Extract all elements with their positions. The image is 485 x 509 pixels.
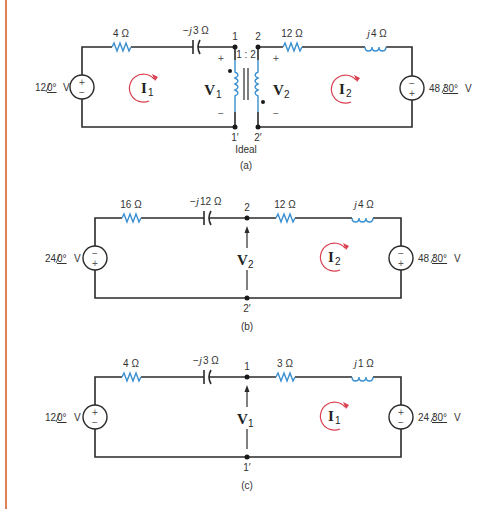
voltage-symbol: V [237, 411, 248, 427]
v1-plus: + [218, 53, 224, 64]
source-unit: V [74, 412, 81, 423]
mesh-current-symbol: I [328, 408, 334, 424]
voltage-source-right-b: − + [389, 246, 413, 270]
svg-text:+: + [92, 258, 98, 269]
svg-text:+: + [398, 258, 404, 269]
circuit-a: + − 12 0° V 4 Ω − j 3 Ω 1 2 1′ 2′ [35, 24, 472, 171]
mesh-current-symbol: I [141, 80, 147, 96]
inductor-label-j: j [365, 27, 370, 39]
v1-symbol: V [204, 82, 215, 98]
source-unit: V [454, 412, 461, 423]
inductor-icon [352, 218, 373, 222]
resistor-label: 4 Ω [123, 358, 139, 369]
mesh-current-subscript: 1 [335, 415, 341, 426]
wire [95, 377, 122, 405]
svg-text:−: − [79, 87, 85, 98]
wire [198, 47, 235, 60]
resistor-icon [283, 43, 302, 51]
wire [258, 100, 412, 127]
source-unit: V [454, 253, 461, 264]
source-unit: V [63, 82, 70, 93]
node-label: 1 [232, 31, 238, 42]
v2-plus: + [273, 53, 279, 64]
svg-text:−: − [92, 417, 98, 428]
source-angle: 0° [57, 253, 67, 264]
voltage-source-left-a: + − [70, 75, 94, 99]
wire [258, 47, 283, 60]
inductor-icon [352, 377, 373, 381]
inductor-icon [365, 47, 386, 51]
svg-text:+: + [409, 88, 415, 99]
source-magnitude: 24 [45, 253, 57, 264]
resistor-icon [112, 43, 131, 51]
capacitor-label-value: 3 Ω [203, 355, 219, 366]
v2-minus: − [273, 108, 279, 119]
ideal-transformer-icon [228, 60, 265, 112]
voltage-source-left-c: + − [83, 405, 107, 429]
node-label: 1′ [243, 462, 251, 473]
circuit-b: − + 24 0° V 16 Ω − j 12 Ω 2 2′ V 2 12 Ω … [45, 195, 461, 332]
resistor-icon [122, 214, 141, 222]
inductor-label-value: 4 Ω [358, 199, 374, 210]
source-unit: V [465, 83, 472, 94]
figure-caption: (b) [241, 321, 253, 332]
figure-caption: (c) [241, 480, 253, 491]
turns-ratio: 1 : 2 [236, 49, 256, 60]
v1-minus: − [218, 108, 224, 119]
resistor-icon [276, 214, 295, 222]
source-angle: 30° [443, 83, 458, 94]
mesh-current-symbol: I [328, 249, 334, 265]
wire [82, 99, 235, 127]
resistor-icon [122, 373, 141, 381]
voltage-source-right-c: + − [389, 405, 413, 429]
capacitor-label-value: 3 Ω [193, 25, 209, 36]
source-magnitude: 24 [418, 412, 430, 423]
resistor-label: 12 Ω [281, 28, 303, 39]
wire [373, 218, 401, 246]
node-1-prime [233, 125, 238, 130]
inductor-label-j: j [352, 198, 357, 210]
node-label: 1′ [231, 132, 239, 143]
voltage-source-right-a: − + [400, 76, 424, 100]
voltage-subscript: 1 [248, 418, 254, 429]
mesh-current-symbol: I [339, 81, 345, 97]
source-magnitude: 48 [418, 253, 430, 264]
node-1 [245, 375, 250, 380]
node-label: 2 [244, 202, 250, 213]
inductor-label-value: 1 Ω [358, 358, 374, 369]
node-label: 2′ [243, 303, 251, 314]
source-magnitude: 48 [429, 83, 441, 94]
node-2-prime [245, 296, 250, 301]
wire [386, 47, 412, 76]
inductor-label-j: j [352, 357, 357, 369]
resistor-label: 16 Ω [120, 199, 142, 210]
v2-subscript: 2 [284, 89, 290, 100]
node-2-prime [256, 125, 261, 130]
voltage-source-left-b: − + [83, 246, 107, 270]
transformer-label: Ideal [235, 144, 257, 155]
node-label: 2 [255, 31, 261, 42]
source-magnitude: 12 [35, 82, 47, 93]
wire [95, 429, 401, 457]
v1-subscript: 1 [216, 89, 222, 100]
voltage-subscript: 2 [248, 259, 254, 270]
mesh-current-subscript: 2 [335, 256, 341, 267]
node-2 [245, 216, 250, 221]
capacitor-label-value: 12 Ω [200, 196, 222, 207]
resistor-label: 3 Ω [277, 358, 293, 369]
svg-text:−: − [398, 417, 404, 428]
wire [373, 377, 401, 405]
resistor-label: 4 Ω [113, 28, 129, 39]
inductor-label-value: 4 Ω [371, 28, 387, 39]
node-label: 1 [244, 361, 250, 372]
circuit-c: + − 12 0° V 4 Ω − j 3 Ω 1 1′ V 1 3 Ω j 1… [45, 354, 461, 491]
wire [82, 47, 112, 75]
mesh-current-subscript: 1 [148, 87, 154, 98]
mesh-current-subscript: 2 [346, 88, 352, 99]
voltage-symbol: V [237, 252, 248, 268]
source-magnitude: 12 [45, 412, 57, 423]
source-angle: 0° [57, 412, 67, 423]
resistor-icon [276, 373, 295, 381]
wire [95, 270, 401, 298]
node-2 [256, 45, 261, 50]
